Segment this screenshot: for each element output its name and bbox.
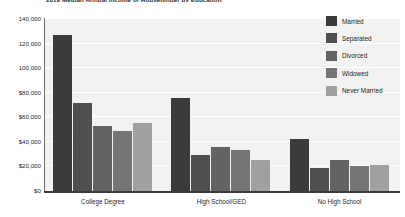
bar[interactable]	[53, 35, 72, 191]
legend-item[interactable]: Never Married	[326, 84, 404, 98]
bar[interactable]	[191, 155, 210, 191]
bar[interactable]	[310, 168, 329, 191]
x-axis-category-label: No High School	[268, 198, 405, 205]
y-axis-tick-label: $40,000	[0, 139, 41, 145]
bar[interactable]	[171, 98, 190, 191]
legend-item[interactable]: Widowed	[326, 66, 404, 80]
bar-group	[171, 19, 270, 191]
bar[interactable]	[113, 131, 132, 191]
legend-swatch-icon	[326, 16, 337, 26]
legend-item[interactable]: Separated	[326, 31, 404, 45]
bar[interactable]	[231, 150, 250, 191]
chart-container: 2019 Median Annual Income of Householder…	[0, 0, 405, 217]
legend-item[interactable]: Married	[326, 14, 404, 28]
y-axis-tick-label: 140,000	[0, 16, 41, 22]
legend-label: Never Married	[342, 87, 383, 94]
y-axis-tick-label: 100,000	[0, 65, 41, 71]
chart-legend: MarriedSeparatedDivorcedWidowedNever Mar…	[326, 14, 404, 101]
bar[interactable]	[350, 166, 369, 191]
y-axis-tick-label: $80,000	[0, 90, 41, 96]
y-axis-tick-label: $0	[0, 188, 41, 194]
legend-label: Married	[342, 18, 364, 25]
legend-swatch-icon	[326, 51, 337, 61]
bar[interactable]	[370, 165, 389, 191]
bar-group	[53, 19, 152, 191]
legend-label: Divorced	[342, 52, 367, 59]
bar[interactable]	[251, 160, 270, 191]
y-axis-tick-label: 120,000	[0, 41, 41, 47]
x-axis-line	[44, 191, 400, 193]
legend-label: Separated	[342, 35, 372, 42]
bar[interactable]	[330, 160, 349, 191]
y-axis-tick-label: $60,000	[0, 114, 41, 120]
bar[interactable]	[93, 126, 112, 191]
legend-swatch-icon	[326, 86, 337, 96]
chart-title: 2019 Median Annual Income of Householder…	[46, 0, 222, 2]
legend-swatch-icon	[326, 33, 337, 43]
legend-label: Widowed	[342, 70, 368, 77]
bar[interactable]	[73, 103, 92, 191]
bar[interactable]	[211, 147, 230, 191]
legend-swatch-icon	[326, 68, 337, 78]
y-axis-tick-label: $20,000	[0, 163, 41, 169]
legend-item[interactable]: Divorced	[326, 49, 404, 63]
bar[interactable]	[133, 123, 152, 191]
y-axis-labels: $0$20,000$40,000$60,000$80,000100,000120…	[0, 0, 41, 217]
bar[interactable]	[290, 139, 309, 191]
